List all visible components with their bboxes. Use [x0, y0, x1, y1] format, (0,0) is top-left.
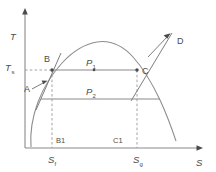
isobar-p1-label-sub: 1: [93, 64, 97, 70]
point-label-b1: B1: [56, 136, 65, 145]
point-label-b: B: [44, 54, 50, 64]
y-axis-label: T: [10, 31, 17, 42]
isobar-p1-label: P 1: [86, 57, 97, 70]
x-tick-sg-sub: g: [140, 161, 143, 167]
isobar-p2-label: P 2: [86, 86, 97, 99]
x-axis-label: S: [196, 157, 203, 168]
y-tick-ts: T s: [5, 62, 15, 75]
x-tick-sf: S f: [48, 154, 57, 167]
saturation-dome-curve: [31, 42, 176, 147]
point-marker-b: [50, 68, 53, 71]
ts-diagram-canvas: T S T s S f S g: [0, 0, 216, 172]
point-marker-c: [135, 68, 138, 71]
x-tick-sf-sub: f: [55, 161, 57, 167]
line-a-arrow: [32, 80, 48, 89]
y-tick-ts-sub: s: [12, 69, 15, 75]
annotation-label-a: A: [24, 84, 30, 94]
point-label-c1: C1: [113, 136, 123, 145]
line-d-path: [131, 33, 172, 101]
y-axis-arrowhead: [22, 8, 28, 15]
x-axis-arrowhead: [197, 145, 204, 151]
ts-diagram-figure: T S T s S f S g: [0, 0, 216, 172]
isobar-p2-label-sub: 2: [93, 93, 97, 99]
annotation-label-d: D: [177, 36, 184, 46]
point-label-c: C: [142, 66, 149, 76]
x-tick-sg: S g: [133, 154, 143, 167]
